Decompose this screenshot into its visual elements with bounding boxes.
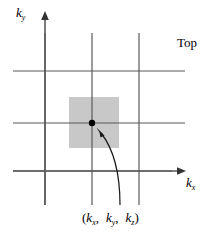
x-axis	[13, 167, 186, 175]
coord-subscript-y: y	[112, 218, 116, 227]
coord-symbol-y: k	[106, 210, 112, 225]
x-axis-label-symbol: k	[186, 175, 192, 190]
x-axis-arrowhead-icon	[177, 167, 186, 175]
coord-separator-y: ,	[115, 210, 118, 225]
view-orientation-label: Top	[177, 36, 197, 49]
lattice-point-marker	[89, 120, 95, 126]
x-axis-label-subscript: x	[192, 183, 196, 192]
close-paren: )	[134, 210, 138, 225]
y-axis-label-symbol: k	[16, 5, 22, 20]
y-axis-arrowhead-icon	[41, 11, 49, 20]
x-axis-label: kx	[186, 176, 195, 189]
k-space-grid-figure: ky kx Top (kx,ky,kz)	[0, 0, 223, 233]
y-axis-label: ky	[16, 6, 25, 19]
coord-separator-x: ,	[96, 210, 99, 225]
coord-subscript-x: x	[92, 218, 96, 227]
coord-subscript-z: z	[131, 218, 134, 227]
y-axis-label-subscript: y	[22, 13, 26, 22]
grid-vertical-lines	[45, 33, 139, 205]
point-coordinate-label: (kx,ky,kz)	[82, 211, 139, 224]
y-axis	[41, 11, 49, 205]
